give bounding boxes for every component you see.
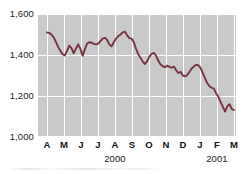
x-group-label-2001: 2001 <box>197 153 237 165</box>
x-tick-label-jan-2001: J <box>192 139 208 151</box>
y-tick-label-1400: 1,400 <box>0 50 34 60</box>
x-tick-label-jun-2000: J <box>73 139 89 151</box>
x-tick-label-apr-2000: A <box>39 139 55 151</box>
y-tick-label-1000: 1,000 <box>0 132 34 142</box>
x-axis-year-groups: 2000 2001 <box>38 153 236 167</box>
y-tick-label-1600: 1,600 <box>0 9 34 19</box>
x-tick-label-sep-2000: S <box>124 139 140 151</box>
x-tick-label-dec-2000: D <box>175 139 191 151</box>
x-tick-label-aug-2000: A <box>107 139 123 151</box>
plot-area <box>38 14 236 137</box>
x-axis: A M J J A S O N D J F M <box>38 139 236 153</box>
x-group-label-2000: 2000 <box>95 153 135 165</box>
y-tick-label-1200: 1,200 <box>0 91 34 101</box>
data-series-line <box>38 14 236 137</box>
scan-artifact <box>8 168 158 170</box>
x-tick-label-mar-2001: M <box>226 139 242 151</box>
x-tick-label-feb-2001: F <box>209 139 225 151</box>
x-tick-label-nov-2000: N <box>158 139 174 151</box>
x-tick-label-may-2000: M <box>56 139 72 151</box>
x-tick-label-jul-2000: J <box>90 139 106 151</box>
y-axis: 1,600 1,400 1,200 1,000 <box>0 0 34 174</box>
x-tick-label-oct-2000: O <box>141 139 157 151</box>
line-chart-figure: 1,600 1,400 1,200 1,000 A M J J A S O N <box>0 0 246 174</box>
